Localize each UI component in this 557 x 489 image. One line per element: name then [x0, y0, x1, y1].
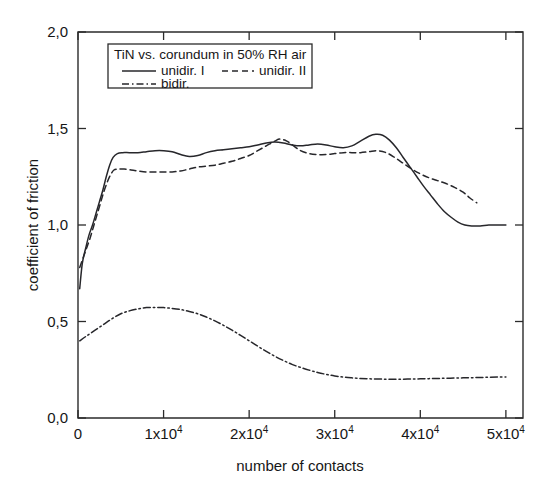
legend-label-bidir: bidir. — [161, 76, 190, 91]
y-tick-label-2: 1,0 — [47, 216, 68, 233]
x-tick-label-1: 1x104 — [145, 424, 184, 442]
y-tick-label-4: 2,0 — [47, 23, 68, 40]
figure-container: 01x1042x1043x1044x1045x104 0,00,51,01,52… — [0, 0, 557, 489]
y-axis-ticks — [78, 32, 523, 418]
plot-frame — [78, 32, 523, 418]
series-path-0 — [80, 134, 506, 288]
chart-canvas: 01x1042x1043x1044x1045x104 0,00,51,01,52… — [0, 0, 557, 489]
series-path-2 — [80, 307, 506, 379]
y-tick-label-1: 0,5 — [47, 313, 68, 330]
x-tick-label-0: 0 — [74, 425, 82, 442]
legend-label-unidir-2: unidir. II — [259, 63, 306, 78]
x-axis-tick-labels: 01x1042x1043x1044x1045x104 — [74, 424, 526, 442]
data-series-layer — [80, 134, 506, 379]
y-axis-title: coefficient of friction — [24, 159, 41, 291]
y-tick-label-3: 1,5 — [47, 120, 68, 137]
x-tick-label-4: 4x104 — [401, 424, 440, 442]
y-axis-tick-labels: 0,00,51,01,52,0 — [47, 23, 68, 426]
series-path-1 — [80, 139, 477, 267]
x-axis-title: number of contacts — [236, 457, 364, 474]
chart-legend: TiN vs. corundum in 50% RH air unidir. I… — [108, 44, 312, 91]
y-tick-label-0: 0,0 — [47, 409, 68, 426]
x-tick-label-2: 2x104 — [230, 424, 269, 442]
axes-frame — [78, 32, 523, 418]
legend-title: TiN vs. corundum in 50% RH air — [114, 47, 307, 62]
x-tick-label-5: 5x104 — [487, 424, 526, 442]
x-axis-ticks — [78, 32, 506, 418]
x-tick-label-3: 3x104 — [316, 424, 355, 442]
